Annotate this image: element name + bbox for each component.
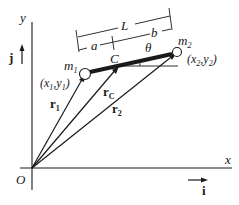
b-label: b — [151, 25, 158, 40]
m1-label: m1 — [64, 58, 77, 75]
y-axis-label: y — [18, 10, 26, 25]
i-unit-label: i — [202, 183, 206, 198]
m2-coord-label: (x2,y2) — [187, 52, 217, 68]
rigid-rod — [90, 54, 172, 72]
j-arrow-icon — [20, 44, 25, 64]
mass-m1-circle — [80, 69, 91, 80]
r2-vector — [32, 54, 175, 168]
m1-coord-label: (x1,y1) — [40, 76, 70, 92]
r1-label: r1 — [50, 96, 60, 113]
r2-label: r2 — [112, 101, 122, 118]
origin-label: O — [16, 172, 26, 187]
center-label: C — [110, 51, 119, 66]
L-label: L — [120, 18, 128, 33]
dumbbell-diagram: y x O j i r1 rC r2 m1 (x1,y1) m2 — [0, 0, 239, 205]
i-arrow-icon — [188, 178, 208, 183]
rC-label: rC — [103, 84, 115, 101]
theta-label: θ — [145, 40, 152, 55]
j-unit-label: j — [8, 50, 13, 65]
x-axis-label: x — [224, 152, 231, 167]
a-label: a — [91, 38, 98, 53]
mass-m2-circle — [173, 48, 182, 57]
m2-label: m2 — [178, 33, 191, 50]
